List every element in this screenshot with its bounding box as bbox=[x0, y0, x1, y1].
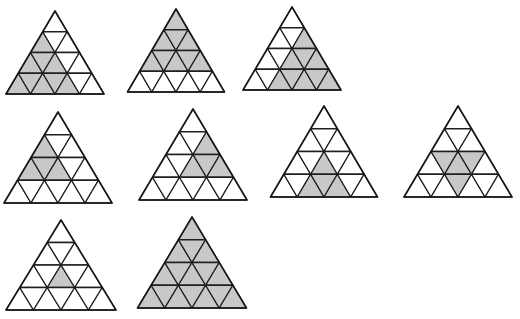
triangles-layer bbox=[4, 7, 512, 310]
unshaded-cell-r0c0 bbox=[180, 109, 207, 132]
subdivided-triangle-t2 bbox=[128, 9, 225, 92]
subdivided-triangle-t4 bbox=[4, 112, 112, 203]
unshaded-cell-r0c0 bbox=[45, 112, 72, 135]
subdivided-triangle-t5 bbox=[139, 109, 247, 200]
subdivided-triangle-t1 bbox=[6, 11, 104, 94]
subdivided-triangle-t9 bbox=[138, 217, 247, 308]
shaded-cell-r0c0 bbox=[178, 217, 205, 240]
subdivided-triangle-t3 bbox=[243, 7, 341, 90]
shaded-cell-r0c0 bbox=[164, 9, 188, 30]
unshaded-cell-r0c0 bbox=[311, 106, 338, 129]
subdivided-triangle-t6 bbox=[271, 106, 378, 197]
triangle-grid-figure bbox=[0, 0, 520, 319]
unshaded-cell-r0c0 bbox=[43, 11, 68, 32]
subdivided-triangle-t7 bbox=[404, 106, 512, 197]
unshaded-cell-r0c0 bbox=[445, 106, 472, 129]
unshaded-cell-r0c0 bbox=[280, 7, 305, 28]
unshaded-cell-r0c0 bbox=[47, 220, 75, 243]
subdivided-triangle-t8 bbox=[6, 220, 116, 310]
